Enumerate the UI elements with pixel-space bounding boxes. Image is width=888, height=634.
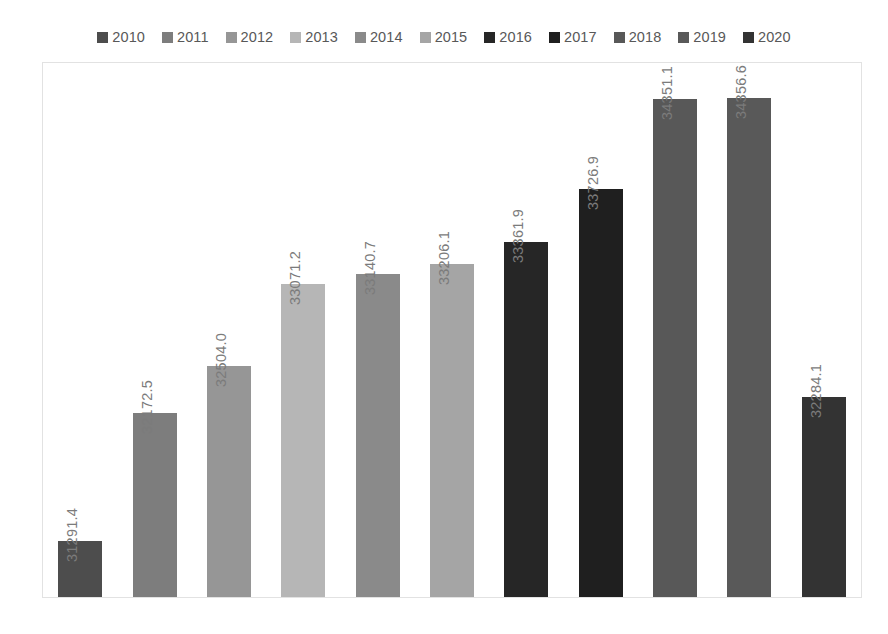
legend-item-2016[interactable]: 2016 bbox=[484, 30, 532, 45]
legend-swatch-icon bbox=[743, 32, 754, 43]
bar-value-label: 32284.1 bbox=[809, 364, 824, 418]
bar-group-2013[interactable]: 33071.2 bbox=[281, 284, 325, 597]
legend-swatch-icon bbox=[226, 32, 237, 43]
legend-item-2015[interactable]: 2015 bbox=[420, 30, 468, 45]
bar-group-2017[interactable]: 33726.9 bbox=[579, 189, 623, 597]
bar-group-2020[interactable]: 32284.1 bbox=[802, 397, 846, 597]
legend-item-2019[interactable]: 2019 bbox=[678, 30, 726, 45]
bar-group-2011[interactable]: 32172.5 bbox=[133, 413, 177, 597]
bar-value-label: 32504.0 bbox=[214, 333, 229, 387]
bar-2019[interactable]: 34356.6 bbox=[727, 98, 771, 597]
legend-label: 2013 bbox=[305, 30, 338, 45]
legend-swatch-icon bbox=[420, 32, 431, 43]
legend-swatch-icon bbox=[290, 32, 301, 43]
bar-2010[interactable]: 31291.4 bbox=[58, 541, 102, 597]
bar-value-label: 32172.5 bbox=[140, 380, 155, 434]
legend-item-2018[interactable]: 2018 bbox=[614, 30, 662, 45]
legend-label: 2016 bbox=[499, 30, 532, 45]
bar-value-label: 33361.9 bbox=[511, 209, 526, 263]
legend-label: 2018 bbox=[629, 30, 662, 45]
bar-2012[interactable]: 32504.0 bbox=[207, 366, 251, 597]
bar-value-label: 33071.2 bbox=[288, 251, 303, 305]
legend-label: 2015 bbox=[435, 30, 468, 45]
bar-2017[interactable]: 33726.9 bbox=[579, 189, 623, 597]
plot-area: 31291.432172.532504.033071.233140.733206… bbox=[42, 62, 862, 598]
legend-swatch-icon bbox=[355, 32, 366, 43]
legend-item-2010[interactable]: 2010 bbox=[97, 30, 145, 45]
bar-2014[interactable]: 33140.7 bbox=[356, 274, 400, 597]
bar-value-label: 34351.1 bbox=[660, 66, 675, 120]
legend-swatch-icon bbox=[614, 32, 625, 43]
legend-label: 2011 bbox=[177, 30, 209, 45]
bar-2020[interactable]: 32284.1 bbox=[802, 397, 846, 597]
legend-item-2013[interactable]: 2013 bbox=[290, 30, 338, 45]
bar-chart-figure: 2010201120122013201420152016201720182019… bbox=[0, 0, 888, 634]
chart-legend: 2010201120122013201420152016201720182019… bbox=[0, 24, 888, 50]
legend-swatch-icon bbox=[549, 32, 560, 43]
bar-group-2014[interactable]: 33140.7 bbox=[356, 274, 400, 597]
bar-2013[interactable]: 33071.2 bbox=[281, 284, 325, 597]
bar-value-label: 33140.7 bbox=[363, 241, 378, 295]
legend-swatch-icon bbox=[678, 32, 689, 43]
legend-label: 2014 bbox=[370, 30, 403, 45]
legend-swatch-icon bbox=[97, 32, 108, 43]
bar-2015[interactable]: 33206.1 bbox=[430, 264, 474, 597]
bar-group-2010[interactable]: 31291.4 bbox=[58, 541, 102, 597]
legend-item-2011[interactable]: 2011 bbox=[162, 30, 209, 45]
bar-value-label: 33206.1 bbox=[437, 231, 452, 285]
bar-group-2018[interactable]: 34351.1 bbox=[653, 99, 697, 597]
bar-value-label: 34356.6 bbox=[734, 65, 749, 119]
legend-label: 2010 bbox=[112, 30, 145, 45]
legend-label: 2020 bbox=[758, 30, 791, 45]
bar-2016[interactable]: 33361.9 bbox=[504, 242, 548, 597]
legend-item-2020[interactable]: 2020 bbox=[743, 30, 791, 45]
bar-group-2019[interactable]: 34356.6 bbox=[727, 98, 771, 597]
bar-group-2015[interactable]: 33206.1 bbox=[430, 264, 474, 597]
legend-swatch-icon bbox=[484, 32, 495, 43]
bar-group-2016[interactable]: 33361.9 bbox=[504, 242, 548, 597]
bar-value-label: 31291.4 bbox=[65, 508, 80, 562]
legend-label: 2017 bbox=[564, 30, 597, 45]
bar-2018[interactable]: 34351.1 bbox=[653, 99, 697, 597]
legend-label: 2012 bbox=[241, 30, 274, 45]
legend-item-2012[interactable]: 2012 bbox=[226, 30, 274, 45]
legend-swatch-icon bbox=[162, 32, 173, 43]
bar-2011[interactable]: 32172.5 bbox=[133, 413, 177, 597]
legend-item-2014[interactable]: 2014 bbox=[355, 30, 403, 45]
bar-value-label: 33726.9 bbox=[586, 156, 601, 210]
legend-label: 2019 bbox=[693, 30, 726, 45]
legend-item-2017[interactable]: 2017 bbox=[549, 30, 597, 45]
bar-group-2012[interactable]: 32504.0 bbox=[207, 366, 251, 597]
bars-layer: 31291.432172.532504.033071.233140.733206… bbox=[43, 63, 861, 597]
